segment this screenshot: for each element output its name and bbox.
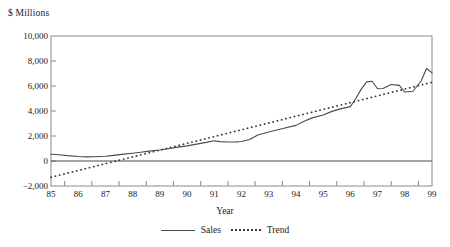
legend-item-trend: Trend	[231, 225, 289, 235]
sales-line	[51, 69, 432, 157]
chart-container: $ Millions 10,0008,0006,0004,0002,0000−2…	[0, 0, 450, 247]
legend-label-trend: Trend	[267, 225, 289, 235]
x-axis-title: Year	[0, 206, 450, 216]
sales-line-swatch-icon	[161, 230, 195, 231]
trend-line	[51, 82, 432, 177]
plot-frame	[51, 36, 432, 186]
chart-legend: Sales Trend	[0, 225, 450, 235]
y-tick-marks	[51, 61, 56, 161]
legend-label-sales: Sales	[201, 225, 221, 235]
x-tick-marks	[65, 181, 419, 186]
legend-item-sales: Sales	[161, 225, 221, 235]
trend-line-swatch-icon	[231, 229, 261, 231]
